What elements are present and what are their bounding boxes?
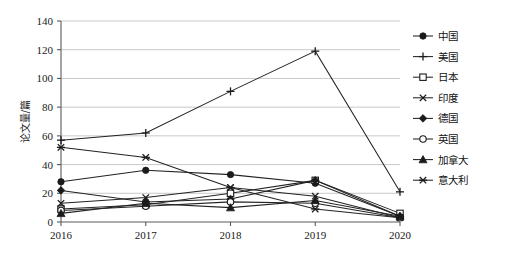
chart-legend: 中国美国日本印度德国英国加拿大意大利 — [413, 30, 469, 186]
legend-label: 加拿大 — [438, 154, 469, 166]
marker-filled-diamond — [419, 115, 427, 123]
y-tick-labels: 020406080100120140 — [37, 15, 54, 228]
legend-item-意大利[interactable]: 意大利 — [413, 174, 468, 186]
x-tick-label: 2020 — [389, 229, 412, 241]
series-line — [61, 51, 400, 192]
legend-item-德国[interactable]: 德国 — [413, 112, 458, 124]
marker-open-circle — [420, 136, 426, 142]
marker-plus — [419, 53, 427, 61]
y-tick-label: 0 — [48, 216, 54, 228]
legend-label: 日本 — [438, 71, 459, 83]
marker-plus — [227, 87, 235, 95]
y-tick-label: 80 — [42, 101, 54, 113]
marker-filled-circle — [227, 171, 233, 177]
legend-item-美国[interactable]: 美国 — [413, 51, 458, 63]
legend-item-英国[interactable]: 英国 — [413, 133, 458, 145]
marker-plus — [311, 47, 319, 55]
x-tick-label: 2016 — [50, 229, 73, 241]
y-tick-label: 20 — [42, 187, 54, 199]
legend-item-日本[interactable]: 日本 — [413, 71, 459, 83]
legend-item-印度[interactable]: 印度 — [413, 92, 459, 104]
marker-filled-circle — [143, 167, 149, 173]
legend-label: 英国 — [438, 133, 458, 145]
legend-item-中国[interactable]: 中国 — [413, 30, 458, 42]
y-tick-label: 60 — [42, 130, 54, 142]
legend-item-加拿大[interactable]: 加拿大 — [413, 154, 469, 166]
y-tick-label: 120 — [37, 44, 54, 56]
marker-plus — [57, 136, 65, 144]
marker-asterisk — [419, 177, 427, 183]
legend-label: 美国 — [438, 51, 458, 63]
marker-open-square — [420, 74, 426, 80]
marker-filled-triangle — [311, 196, 319, 203]
marker-asterisk — [142, 154, 150, 160]
y-axis-title: 论文量/篇 — [19, 100, 31, 143]
x-tick-label: 2019 — [304, 229, 327, 241]
y-tick-label: 40 — [42, 159, 54, 171]
y-tick-label: 140 — [37, 15, 54, 27]
marker-plus — [396, 188, 404, 196]
series-lines-group — [57, 47, 404, 221]
legend-label: 印度 — [438, 92, 459, 104]
marker-filled-circle — [420, 33, 426, 39]
line-chart: 020406080100120140 20162017201820192020 … — [0, 0, 517, 254]
marker-filled-circle — [58, 179, 64, 185]
legend-label: 意大利 — [438, 174, 468, 186]
legend-label: 德国 — [438, 112, 458, 124]
y-tick-label: 100 — [37, 72, 54, 84]
x-tick-label: 2017 — [135, 229, 158, 241]
y-axis-title-text: 论文量/篇 — [19, 100, 31, 143]
chart-canvas: 020406080100120140 20162017201820192020 … — [0, 0, 517, 254]
x-tick-labels: 20162017201820192020 — [50, 229, 412, 241]
legend-label: 中国 — [438, 30, 458, 42]
x-tick-label: 2018 — [220, 229, 243, 241]
